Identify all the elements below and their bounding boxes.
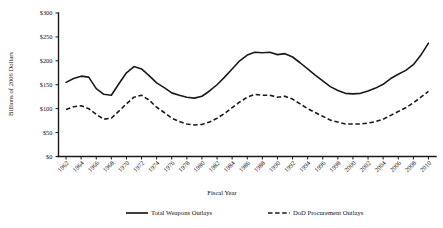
y-tick-label: $250: [40, 33, 53, 40]
x-tick-label: 1978: [177, 159, 191, 173]
y-tick-label: $50: [43, 129, 53, 136]
x-tick-label: 1962: [56, 159, 70, 173]
x-axis-title: Fiscal Year: [207, 189, 237, 196]
line-chart: Billions of 2006 Dollars $0$50$100$150$2…: [0, 0, 443, 228]
y-tick-label: $150: [40, 81, 53, 88]
x-tick-label: 1988: [252, 159, 266, 173]
x-tick-label: 1994: [298, 159, 313, 174]
legend-label: DoD Procurement Outlays: [293, 209, 364, 216]
y-tick-label: $300: [40, 9, 53, 16]
x-tick-label: 1964: [71, 159, 86, 174]
x-tick-label: 1968: [101, 159, 115, 173]
y-tick-label: $0: [46, 153, 52, 160]
x-tick-label: 1986: [237, 159, 251, 173]
x-tick-label: 2002: [358, 159, 372, 173]
legend-label: Total Weapons Outlays: [151, 209, 213, 216]
x-tick-label: 1990: [267, 159, 281, 173]
series-dod-procurement-outlays: [66, 91, 428, 124]
x-tick-label: 2004: [373, 159, 388, 174]
y-tick-label: $100: [40, 105, 53, 112]
y-axis-ticks: $0$50$100$150$200$250$300: [40, 9, 59, 160]
y-axis-title: Billions of 2006 Dollars: [7, 52, 14, 116]
x-tick-label: 2006: [388, 159, 402, 173]
x-tick-label: 1998: [328, 159, 342, 173]
chart-container: Billions of 2006 Dollars $0$50$100$150$2…: [0, 0, 443, 228]
y-tick-label: $200: [40, 57, 53, 64]
x-axis-ticks: 1962196419661968197019721974197619781980…: [56, 157, 432, 174]
x-tick-label: 2010: [418, 159, 432, 173]
x-tick-label: 1970: [116, 159, 130, 173]
x-tick-label: 2000: [343, 159, 357, 173]
series-total-weapons-outlays: [66, 43, 428, 98]
x-tick-label: 1972: [131, 159, 145, 173]
x-tick-label: 1996: [313, 159, 327, 173]
x-tick-label: 1974: [147, 159, 162, 174]
x-tick-label: 1992: [282, 159, 296, 173]
x-tick-label: 1980: [192, 159, 206, 173]
y-axis-title-group: Billions of 2006 Dollars: [7, 52, 14, 116]
x-tick-label: 1984: [222, 159, 237, 174]
x-tick-label: 1982: [207, 159, 221, 173]
chart-legend: Total Weapons OutlaysDoD Procurement Out…: [126, 209, 364, 216]
x-tick-label: 1966: [86, 159, 100, 173]
x-tick-label: 2008: [403, 159, 417, 173]
x-tick-label: 1976: [162, 159, 176, 173]
